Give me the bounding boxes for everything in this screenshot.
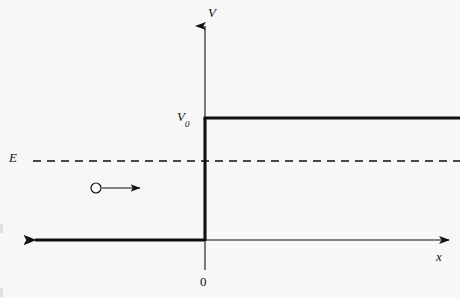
energy-level-label: E <box>9 151 17 164</box>
step-height-subscript: 0 <box>185 119 190 129</box>
step-height-symbol: V <box>177 109 185 124</box>
page-edge-speck-upper <box>0 224 3 233</box>
potential-step-figure: V x 0 E V0 <box>0 0 460 298</box>
origin-label: 0 <box>200 275 207 288</box>
page-edge-speck-lower <box>0 288 3 297</box>
step-height-label: V0 <box>177 110 189 127</box>
x-axis-label: x <box>436 250 442 263</box>
incident-particle-circle <box>91 183 101 193</box>
figure-canvas <box>0 0 460 298</box>
v-axis-label: V <box>208 6 216 19</box>
